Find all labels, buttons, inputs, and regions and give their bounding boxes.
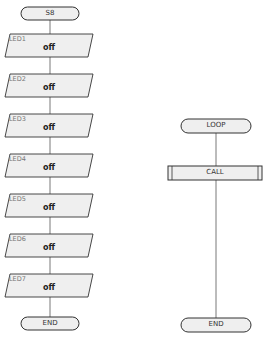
step-name: LED2	[9, 75, 26, 83]
call-label: CALL	[168, 168, 262, 176]
step-value: off	[5, 123, 93, 132]
end-label-right: END	[181, 320, 251, 328]
step-name: LED4	[9, 155, 26, 163]
step-name: LED5	[9, 195, 26, 203]
step-value: off	[5, 243, 93, 252]
start-label: S8	[21, 9, 79, 17]
step-name: LED6	[9, 235, 26, 243]
step-value: off	[5, 163, 93, 172]
step-name: LED7	[9, 275, 26, 283]
step-value: off	[5, 43, 93, 52]
step-value: off	[5, 203, 93, 212]
step-value: off	[5, 283, 93, 292]
step-value: off	[5, 83, 93, 92]
end-label-left: END	[21, 319, 79, 327]
step-name: LED1	[9, 35, 26, 43]
step-name: LED3	[9, 115, 26, 123]
loop-label: LOOP	[181, 121, 251, 129]
